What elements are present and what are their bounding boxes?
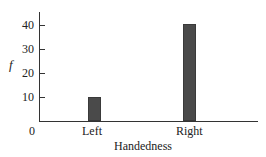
category-label-right: Right bbox=[176, 125, 203, 137]
category-label-left: Left bbox=[82, 125, 102, 137]
y-tick-label-40: 40 bbox=[14, 19, 34, 31]
y-tick-10 bbox=[40, 97, 45, 98]
x-axis bbox=[39, 121, 258, 122]
bar-right bbox=[183, 24, 196, 121]
y-tick-label-20: 20 bbox=[14, 67, 34, 79]
y-tick-label-30: 30 bbox=[14, 43, 34, 55]
y-tick-40 bbox=[40, 25, 45, 26]
bar-left bbox=[88, 97, 101, 121]
y-tick-30 bbox=[40, 49, 45, 50]
bar-chart: 40 30 20 10 0 f Left Right Handedness bbox=[0, 0, 266, 157]
y-tick-label-10: 10 bbox=[14, 91, 34, 103]
x-axis-label: Handedness bbox=[114, 140, 172, 152]
y-axis bbox=[39, 12, 40, 122]
origin-label: 0 bbox=[29, 125, 35, 137]
y-axis-label: f bbox=[9, 59, 13, 71]
y-tick-20 bbox=[40, 73, 45, 74]
